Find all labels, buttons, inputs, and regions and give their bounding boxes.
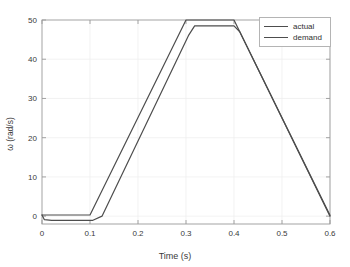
legend-item-actual: actual	[264, 21, 325, 32]
grid-lines	[42, 20, 330, 224]
y-tick-label: 10	[28, 172, 37, 181]
x-tick-label: 0	[40, 229, 44, 238]
legend-label-actual: actual	[293, 21, 314, 32]
legend-line-swatch-actual	[264, 26, 288, 27]
y-tick-label: 0	[33, 212, 37, 221]
x-tick-label: 0.1	[84, 229, 95, 238]
legend-item-demand: demand	[264, 32, 325, 43]
y-tick-label: 50	[28, 16, 37, 25]
x-tick-label: 0.3	[180, 229, 191, 238]
x-tick-label: 0.4	[228, 229, 239, 238]
y-tick-label: 30	[28, 94, 37, 103]
x-tick-label: 0.6	[324, 229, 335, 238]
x-tick-label: 0.5	[276, 229, 287, 238]
x-axis-label: Time (s)	[0, 251, 350, 261]
y-tick-label: 40	[28, 55, 37, 64]
y-tick-label: 20	[28, 133, 37, 142]
plot-figure: 00.10.20.30.40.50.6 01020304050 Time (s)…	[0, 0, 350, 267]
legend-line-swatch-demand	[264, 37, 288, 38]
chart-legend: actual demand	[259, 17, 331, 47]
legend-label-demand: demand	[293, 32, 322, 43]
y-axis-label: ω (rad/s)	[5, 102, 15, 166]
x-tick-label: 0.2	[132, 229, 143, 238]
